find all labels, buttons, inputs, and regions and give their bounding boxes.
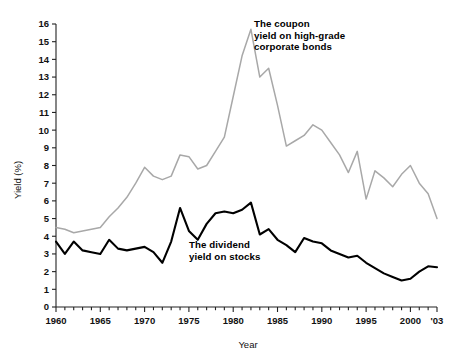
y-tick-label: 1 bbox=[44, 284, 50, 295]
y-tick-label: 3 bbox=[44, 248, 49, 259]
y-tick-label: 13 bbox=[38, 71, 49, 82]
y-tick-label: 16 bbox=[38, 18, 49, 29]
x-tick-label: 1990 bbox=[311, 315, 332, 326]
annotation-stocks-line2: yield on stocks bbox=[189, 251, 261, 262]
series-line-corporate-bonds bbox=[56, 29, 437, 232]
y-tick-label: 14 bbox=[38, 54, 49, 65]
x-tick-label: '03 bbox=[431, 315, 444, 326]
x-tick-label: 1980 bbox=[223, 315, 244, 326]
y-tick-label: 7 bbox=[44, 178, 49, 189]
annotation-bonds-line3: corporate bonds bbox=[254, 41, 332, 52]
x-tick-label: 1970 bbox=[134, 315, 155, 326]
y-tick-label: 6 bbox=[44, 195, 49, 206]
y-axis-title: Yield (%) bbox=[12, 161, 23, 199]
y-tick-label: 10 bbox=[38, 125, 49, 136]
y-tick-label: 11 bbox=[39, 107, 50, 118]
x-tick-label: 1995 bbox=[356, 315, 378, 326]
y-tick-label: 2 bbox=[44, 266, 49, 277]
x-axis-title: Year bbox=[238, 339, 257, 350]
annotation-corporate-bonds: The coupon yield on high-grade corporate… bbox=[254, 18, 345, 53]
annotation-dividend-stocks: The dividend yield on stocks bbox=[189, 239, 261, 262]
x-tick-label: 1960 bbox=[45, 315, 66, 326]
x-axis: 196019651970197519801985199019952000'03 bbox=[45, 307, 443, 326]
x-tick-label: 2000 bbox=[400, 315, 421, 326]
chart-canvas: 012345678910111213141516 196019651970197… bbox=[0, 0, 461, 356]
annotation-stocks-line1: The dividend bbox=[189, 239, 250, 250]
y-tick-label: 4 bbox=[44, 231, 50, 242]
y-tick-label: 12 bbox=[38, 89, 49, 100]
y-tick-label: 15 bbox=[38, 36, 49, 47]
yield-chart-figure: 012345678910111213141516 196019651970197… bbox=[0, 0, 461, 356]
x-tick-label: 1975 bbox=[178, 315, 200, 326]
y-tick-label: 8 bbox=[44, 160, 49, 171]
annotation-bonds-line1: The coupon bbox=[254, 18, 310, 29]
x-tick-label: 1965 bbox=[90, 315, 112, 326]
annotation-bonds-line2: yield on high-grade bbox=[254, 30, 345, 41]
x-tick-label: 1985 bbox=[267, 315, 289, 326]
y-tick-label: 5 bbox=[44, 213, 50, 224]
y-tick-label: 9 bbox=[44, 142, 49, 153]
y-axis: 012345678910111213141516 bbox=[38, 18, 56, 312]
y-tick-label: 0 bbox=[44, 301, 49, 312]
